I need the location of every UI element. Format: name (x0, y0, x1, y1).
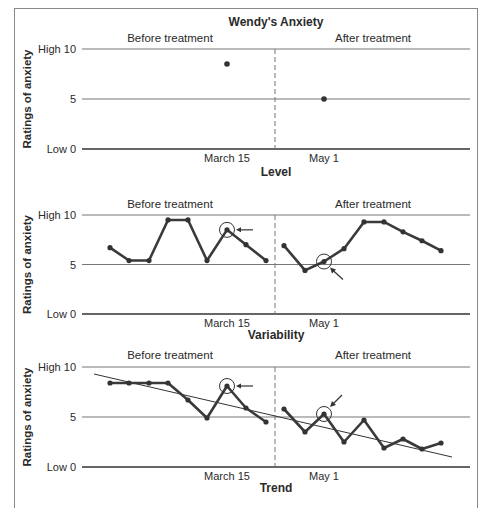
y-tick-high: High 10 (38, 43, 76, 55)
arrowhead-icon (236, 227, 241, 232)
y-tick-low: Low 0 (47, 308, 76, 320)
data-point (165, 380, 170, 385)
data-point (224, 383, 229, 388)
y-tick-mid: 5 (70, 411, 76, 423)
data-point (126, 258, 131, 263)
phase-label-before: Before treatment (127, 32, 213, 44)
y-tick-mid: 5 (70, 259, 76, 271)
trend-line (94, 374, 452, 457)
data-point (243, 242, 248, 247)
data-point (381, 445, 386, 450)
x-tick-march-15: March 15 (204, 317, 250, 329)
figure-title: Wendy's Anxiety (229, 15, 324, 29)
panel-caption: Trend (260, 481, 293, 495)
data-series-line (110, 220, 266, 261)
data-point (438, 248, 443, 253)
data-point (107, 245, 112, 250)
phase-label-after: After treatment (335, 198, 412, 210)
data-point (204, 415, 209, 420)
x-tick-may-1: May 1 (309, 317, 339, 329)
phase-label-before: Before treatment (127, 198, 213, 210)
data-point (281, 406, 286, 411)
data-point (321, 259, 326, 264)
data-point (381, 219, 386, 224)
data-point (224, 61, 230, 67)
data-point (419, 238, 424, 243)
data-point (263, 419, 268, 424)
data-point (281, 243, 286, 248)
data-point (204, 258, 209, 263)
y-axis-label: Ratings of anxiety (21, 367, 33, 467)
x-tick-march-15: March 15 (204, 470, 250, 482)
data-point (263, 258, 268, 263)
data-point (341, 246, 346, 251)
data-point (361, 219, 366, 224)
data-point (302, 268, 307, 273)
y-tick-low: Low 0 (47, 461, 76, 473)
data-point (400, 229, 405, 234)
data-point (438, 440, 443, 445)
data-point (243, 405, 248, 410)
x-tick-march-15: March 15 (204, 152, 250, 164)
data-series-line (284, 222, 441, 271)
data-point (321, 411, 326, 416)
data-point (126, 380, 131, 385)
arrowhead-icon (236, 384, 241, 389)
data-point (400, 436, 405, 441)
phase-label-before: Before treatment (127, 349, 213, 361)
data-point (185, 217, 190, 222)
x-tick-may-1: May 1 (309, 470, 339, 482)
data-point (302, 429, 307, 434)
data-point (107, 380, 112, 385)
y-axis-label: Ratings of anxiety (21, 49, 33, 149)
data-point (361, 417, 366, 422)
y-tick-high: High 10 (38, 209, 76, 221)
panel-caption: Level (261, 165, 292, 179)
y-axis-label: Ratings of anxiety (21, 214, 33, 314)
data-point (165, 217, 170, 222)
data-point (185, 397, 190, 402)
x-tick-may-1: May 1 (309, 152, 339, 164)
data-point (419, 446, 424, 451)
phase-label-after: After treatment (335, 32, 412, 44)
data-point (146, 380, 151, 385)
phase-label-after: After treatment (335, 349, 412, 361)
data-series-line (284, 409, 441, 449)
y-tick-low: Low 0 (47, 143, 76, 155)
data-point (341, 439, 346, 444)
panel-caption: Variability (248, 328, 305, 342)
data-point (321, 96, 327, 102)
data-point (224, 227, 229, 232)
data-point (146, 258, 151, 263)
y-tick-high: High 10 (38, 361, 76, 373)
y-tick-mid: 5 (70, 93, 76, 105)
